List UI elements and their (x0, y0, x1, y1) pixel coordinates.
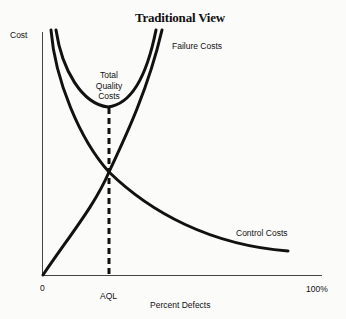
failure-costs-curve (43, 30, 162, 275)
chart-plot-area (0, 0, 346, 319)
control-costs-curve (51, 30, 288, 251)
